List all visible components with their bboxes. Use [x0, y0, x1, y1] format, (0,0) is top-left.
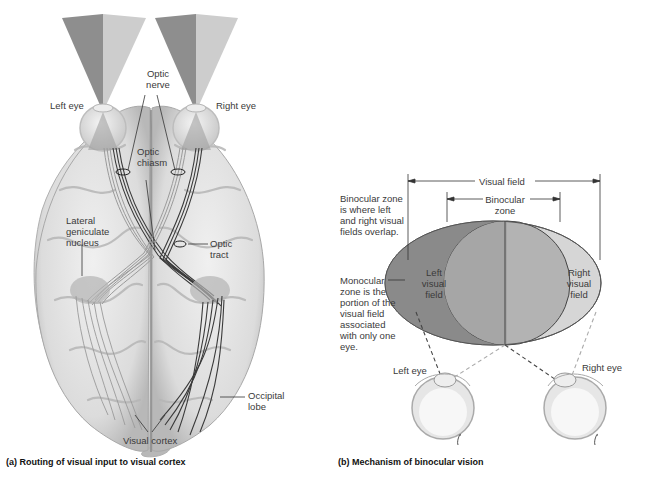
caption-panel-b: (b) Mechanism of binocular vision	[338, 457, 484, 467]
binocular-right-eye	[544, 373, 606, 445]
right-eye-field-cone	[155, 14, 238, 112]
label-optic-chiasm: Optic chiasm	[137, 146, 167, 168]
label-optic-nerve: Optic nerve	[140, 68, 176, 90]
label-visual-field: Visual field	[479, 176, 525, 187]
label-right-eye-a: Right eye	[216, 100, 256, 111]
binocular-zone-description: Binocular zone is where left and right v…	[340, 193, 404, 237]
label-occipital-lobe: Occipital lobe	[248, 390, 284, 412]
label-optic-tract: Optic tract	[210, 238, 232, 260]
monocular-zone-description: Monocular zone is the portion of the vis…	[340, 275, 395, 352]
left-eyeball	[80, 104, 126, 151]
caption-panel-a: (a) Routing of visual input to visual co…	[6, 457, 186, 467]
label-visual-cortex: Visual cortex	[123, 435, 177, 446]
label-right-visual-field: Right visual field	[562, 267, 596, 300]
right-eyeball	[173, 104, 219, 151]
binocular-left-eye	[412, 373, 474, 445]
label-lateral-geniculate-nucleus: Lateral geniculate nucleus	[66, 215, 109, 248]
label-binocular-zone: Binocular zone	[481, 194, 529, 216]
label-left-eye-b: Left eye	[393, 365, 427, 376]
left-eye-field-cone	[62, 14, 146, 112]
label-right-eye-b: Right eye	[582, 362, 622, 373]
label-left-visual-field: Left visual field	[417, 267, 451, 300]
label-left-eye-a: Left eye	[50, 100, 84, 111]
